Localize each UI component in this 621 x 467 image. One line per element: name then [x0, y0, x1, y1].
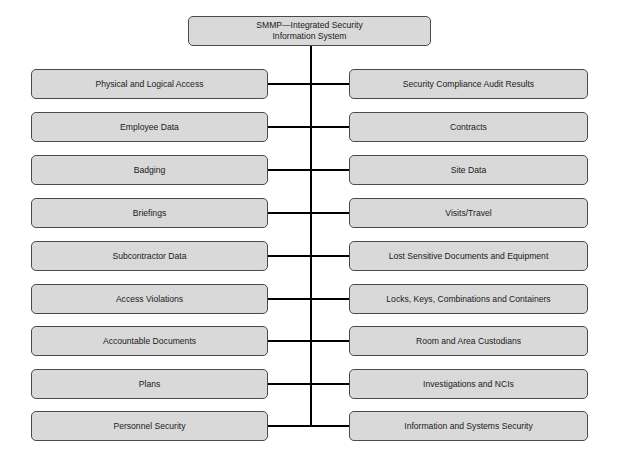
root-node: SMMP—Integrated Security Information Sys…	[188, 16, 431, 46]
node-label: Security Compliance Audit Results	[403, 79, 534, 90]
node-label: Employee Data	[120, 122, 179, 133]
left-node: Subcontractor Data	[31, 241, 268, 271]
node-label: Contracts	[450, 122, 487, 133]
right-connector	[311, 169, 349, 171]
right-node: Contracts	[349, 112, 588, 142]
left-connector	[268, 126, 311, 128]
node-label: Lost Sensitive Documents and Equipment	[389, 251, 549, 262]
node-label: Information and Systems Security	[404, 421, 532, 432]
right-connector	[311, 425, 349, 427]
left-connector	[268, 255, 311, 257]
right-connector	[311, 298, 349, 300]
left-node: Access Violations	[31, 284, 268, 314]
node-label: Site Data	[451, 165, 486, 176]
node-label: Investigations and NCIs	[423, 379, 514, 390]
right-node: Investigations and NCIs	[349, 369, 588, 399]
left-connector	[268, 169, 311, 171]
right-node: Visits/Travel	[349, 198, 588, 228]
left-connector	[268, 340, 311, 342]
left-connector	[268, 83, 311, 85]
node-label: Accountable Documents	[103, 336, 196, 347]
left-connector	[268, 212, 311, 214]
right-connector	[311, 383, 349, 385]
left-connector	[268, 298, 311, 300]
node-label: Briefings	[133, 208, 166, 219]
right-connector	[311, 126, 349, 128]
left-node: Briefings	[31, 198, 268, 228]
right-node: Locks, Keys, Combinations and Containers	[349, 284, 588, 314]
left-node: Accountable Documents	[31, 326, 268, 356]
root-node-line1: SMMP—Integrated Security	[256, 20, 363, 31]
node-label: Access Violations	[116, 294, 183, 305]
node-label: Visits/Travel	[445, 208, 491, 219]
right-node: Security Compliance Audit Results	[349, 69, 588, 99]
node-label: Locks, Keys, Combinations and Containers	[386, 294, 550, 305]
left-node: Employee Data	[31, 112, 268, 142]
left-node: Physical and Logical Access	[31, 69, 268, 99]
node-label: Plans	[139, 379, 161, 390]
right-connector	[311, 340, 349, 342]
root-node-line2: Information System	[256, 31, 363, 42]
left-connector	[268, 425, 311, 427]
right-node: Lost Sensitive Documents and Equipment	[349, 241, 588, 271]
right-node: Site Data	[349, 155, 588, 185]
node-label: Physical and Logical Access	[96, 79, 204, 90]
left-connector	[268, 383, 311, 385]
left-node: Personnel Security	[31, 411, 268, 441]
node-label: Room and Area Custodians	[416, 336, 521, 347]
node-label: Subcontractor Data	[112, 251, 186, 262]
right-node: Information and Systems Security	[349, 411, 588, 441]
left-node: Plans	[31, 369, 268, 399]
right-connector	[311, 255, 349, 257]
right-connector	[311, 212, 349, 214]
node-label: Badging	[134, 165, 166, 176]
spine-connector	[310, 46, 312, 427]
right-connector	[311, 83, 349, 85]
node-label: Personnel Security	[113, 421, 185, 432]
right-node: Room and Area Custodians	[349, 326, 588, 356]
left-node: Badging	[31, 155, 268, 185]
